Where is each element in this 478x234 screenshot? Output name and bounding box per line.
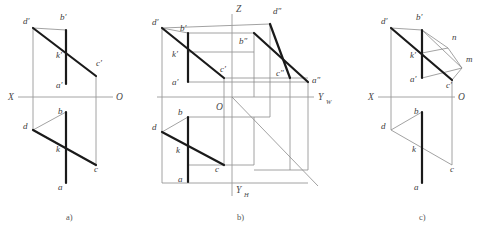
b-prime-label: b′ [60,12,68,22]
seg-aprime-m [422,68,462,78]
c-double-prime-label: c″ [276,68,284,78]
descriptive-geometry-figure: XOd′b′k′c′a′bdkcaZYWYHOd′b′k′c′a′d″b″c″a… [0,0,478,234]
yh-axis-label: Y [236,185,243,195]
seg-bprime-n [422,30,448,48]
a-prime-label: a′ [410,74,418,84]
o-origin-label: O [116,92,123,102]
cap-b: b) [237,212,244,222]
n-point-label: n [452,32,457,42]
c-point-label: c [450,164,454,174]
yh-axis-sublabel: H [243,191,249,198]
b-double-prime-label: b″ [239,36,248,46]
box-top-1 [162,24,270,28]
c-prime-label: c′ [96,58,103,68]
panel-b: ZYWYHOd′b′k′c′a′d″b″c″a″bdkca [152,4,332,198]
d-prime-label: d′ [381,16,389,26]
c-point-label: c [94,164,98,174]
a-prime-label: a′ [172,77,180,87]
b-point-label: b [178,107,183,117]
x-axis-label: X [367,92,375,102]
k-prime-label: k′ [56,50,63,60]
m-point-label: m [466,54,473,64]
seg-d-c [162,132,224,165]
c-prime-label: c′ [446,80,453,90]
seg-d-c [33,130,96,165]
c-point-label: c [215,164,219,174]
figure-canvas: XOd′b′k′c′a′bdkcaZYWYHOd′b′k′c′a′d″b″c″a… [0,0,478,234]
k-point-label: k [176,145,181,155]
d-point-label: d [152,122,157,132]
b-point-label: b [58,106,63,116]
k-prime-label: k′ [410,50,417,60]
panel-a: XOd′b′k′c′a′bdkca [7,12,123,192]
edge-d-b [162,117,188,132]
d-point-label: d [381,121,386,131]
a-point-label: a [58,182,63,192]
o-origin-label: O [458,92,465,102]
z-axis-label: Z [236,4,242,14]
a-point-label: a [178,174,183,184]
yw-axis-sublabel: W [326,98,332,105]
b-prime-label: b′ [180,23,188,33]
b-point-label: b [414,106,419,116]
k-prime-label: k′ [172,49,179,59]
d-prime-label: d′ [23,16,31,26]
seg-dprime-cprime [33,28,96,76]
panel-c: XOd′b′k′a′c′nmbdkca [367,12,473,192]
captions: a)b)c) [66,212,426,222]
cap-a: a) [66,212,73,222]
a-prime-label: a′ [56,80,64,90]
d-prime-label: d′ [152,17,160,27]
edge-dprime-bprime [33,28,66,30]
k-point-label: k [412,144,417,154]
d-point-label: d [23,121,28,131]
seg-n-m [448,48,462,68]
x-axis-label: X [7,92,15,102]
c-prime-label: c′ [220,64,227,74]
o-origin-label: O [216,102,223,112]
cap-c: c) [419,212,426,222]
a-double-prime-label: a″ [312,75,321,85]
d-double-prime-label: d″ [273,6,282,16]
edge-dprime-bprime [391,28,422,30]
b-prime-label: b′ [416,12,424,22]
yw-axis-label: Y [318,92,325,102]
a-point-label: a [414,182,419,192]
bisector [232,97,318,186]
